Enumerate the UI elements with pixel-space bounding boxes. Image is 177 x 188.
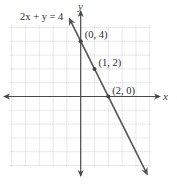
- x-axis-label: x: [162, 90, 168, 102]
- data-point: [93, 67, 97, 71]
- point-label: (2, 0): [112, 85, 135, 97]
- data-point: [79, 39, 83, 43]
- y-axis-label: y: [77, 0, 83, 12]
- point-label: (1, 2): [99, 57, 122, 69]
- chart: (0, 4)(1, 2)(2, 0) 2x + y = 4 x y: [0, 0, 177, 188]
- data-point: [106, 95, 110, 99]
- labels: 2x + y = 4 x y: [20, 0, 168, 102]
- axes: [4, 11, 160, 176]
- point-label: (0, 4): [85, 29, 108, 41]
- equation-label: 2x + y = 4: [20, 11, 64, 22]
